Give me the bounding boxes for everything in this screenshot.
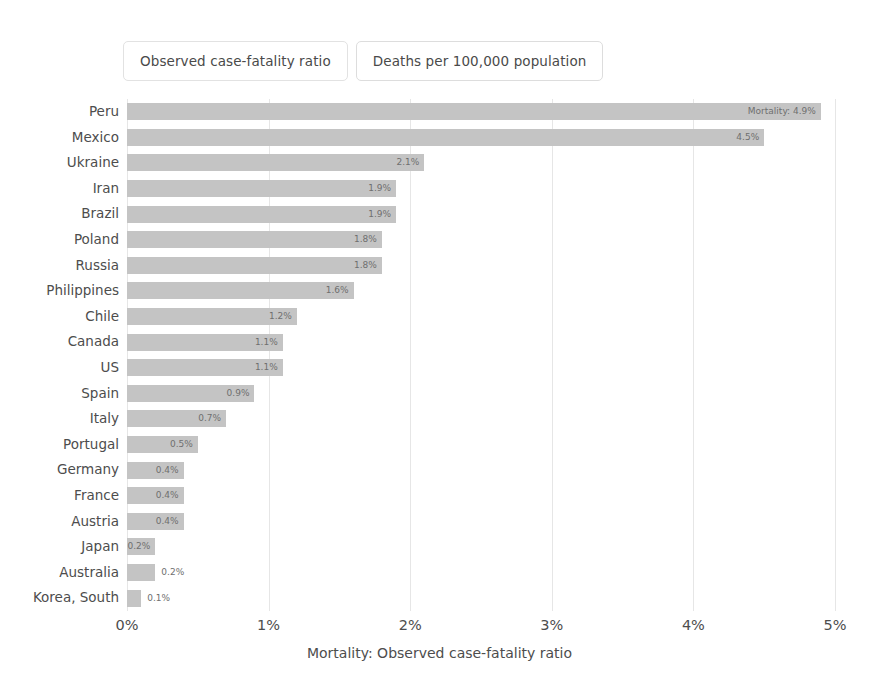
bar-value-label: 0.4%: [156, 517, 184, 526]
bar[interactable]: 1.6%: [127, 282, 354, 299]
category-label: Canada: [68, 335, 119, 349]
category-label: Austria: [71, 515, 119, 529]
category-label: Chile: [85, 310, 119, 324]
plot-area: PeruMortality: 4.9%Mexico4.5%Ukraine2.1%…: [127, 99, 835, 611]
bar[interactable]: 1.1%: [127, 359, 283, 376]
category-label: Portugal: [63, 438, 119, 452]
category-label: Peru: [89, 105, 119, 119]
bar[interactable]: 1.9%: [127, 180, 396, 197]
bar[interactable]: 1.8%: [127, 257, 382, 274]
category-label: Poland: [74, 233, 119, 247]
bar-row[interactable]: Russia1.8%: [127, 253, 835, 279]
bar-chart: PeruMortality: 4.9%Mexico4.5%Ukraine2.1%…: [0, 0, 879, 677]
x-tick-label: 2%: [399, 617, 422, 633]
bar[interactable]: 1.8%: [127, 231, 382, 248]
bar[interactable]: 0.5%: [127, 436, 198, 453]
bar-value-label: 2.1%: [396, 158, 424, 167]
bar-row[interactable]: France0.4%: [127, 483, 835, 509]
category-label: Germany: [57, 463, 119, 477]
x-axis-title: Mortality: Observed case-fatality ratio: [0, 645, 879, 661]
bar[interactable]: 1.9%: [127, 206, 396, 223]
bar-row[interactable]: Mexico4.5%: [127, 125, 835, 151]
bar-value-label: 1.1%: [255, 363, 283, 372]
bar-row[interactable]: Iran1.9%: [127, 176, 835, 202]
bar-row[interactable]: Italy0.7%: [127, 406, 835, 432]
category-label: Spain: [81, 387, 119, 401]
bar[interactable]: 0.4%: [127, 462, 184, 479]
bar-value-label: 1.6%: [326, 286, 354, 295]
category-label: Russia: [76, 259, 119, 273]
category-label: Australia: [59, 566, 119, 580]
bar-row[interactable]: Chile1.2%: [127, 304, 835, 330]
bar-row[interactable]: Korea, South0.1%: [127, 585, 835, 611]
bar-value-label: 0.4%: [156, 491, 184, 500]
bar-row[interactable]: Spain0.9%: [127, 381, 835, 407]
bar-row[interactable]: US1.1%: [127, 355, 835, 381]
bar[interactable]: 0.4%: [127, 513, 184, 530]
bar[interactable]: 0.7%: [127, 410, 226, 427]
bar[interactable]: 1.1%: [127, 334, 283, 351]
bar-value-label: 1.1%: [255, 338, 283, 347]
bar-row[interactable]: Austria0.4%: [127, 509, 835, 535]
bar-row[interactable]: Philippines1.6%: [127, 278, 835, 304]
bar-row[interactable]: Poland1.8%: [127, 227, 835, 253]
bar[interactable]: 4.5%: [127, 129, 764, 146]
category-label: Iran: [93, 182, 119, 196]
category-label: Brazil: [81, 207, 119, 221]
bar[interactable]: Mortality: 4.9%: [127, 103, 821, 120]
bar-value-label: 0.9%: [227, 389, 255, 398]
bar-value-label: 1.8%: [354, 235, 382, 244]
bar-value-label: 0.4%: [156, 466, 184, 475]
bar-value-label: 0.1%: [147, 594, 170, 603]
bar-value-label: 1.9%: [368, 184, 396, 193]
bar-value-label: Mortality: 4.9%: [748, 107, 821, 116]
category-label: Japan: [81, 540, 119, 554]
category-label: US: [101, 361, 119, 375]
bar[interactable]: 0.1%: [127, 590, 141, 607]
x-tick-label: 1%: [257, 617, 280, 633]
bar-value-label: 0.2%: [161, 568, 184, 577]
category-label: Ukraine: [67, 156, 119, 170]
bar[interactable]: 0.9%: [127, 385, 254, 402]
x-tick-label: 4%: [682, 617, 705, 633]
bar-row[interactable]: Australia0.2%: [127, 560, 835, 586]
bar[interactable]: 2.1%: [127, 154, 424, 171]
bar[interactable]: 1.2%: [127, 308, 297, 325]
bar-row[interactable]: Portugal0.5%: [127, 432, 835, 458]
bar-value-label: 1.8%: [354, 261, 382, 270]
bar-row[interactable]: Ukraine2.1%: [127, 150, 835, 176]
bar-row[interactable]: Canada1.1%: [127, 329, 835, 355]
category-label: France: [74, 489, 119, 503]
bar-value-label: 0.7%: [198, 414, 226, 423]
bar-row[interactable]: Germany0.4%: [127, 457, 835, 483]
category-label: Korea, South: [33, 591, 119, 605]
bar-row[interactable]: Brazil1.9%: [127, 201, 835, 227]
bar-row[interactable]: Japan0.2%: [127, 534, 835, 560]
category-label: Italy: [90, 412, 119, 426]
x-tick-label: 5%: [823, 617, 846, 633]
bar[interactable]: 0.2%: [127, 564, 155, 581]
bar-value-label: 0.2%: [127, 542, 155, 551]
gridline-5pct: [835, 99, 836, 611]
bar-value-label: 0.5%: [170, 440, 198, 449]
bar-row[interactable]: PeruMortality: 4.9%: [127, 99, 835, 125]
bar[interactable]: 0.4%: [127, 487, 184, 504]
bar-value-label: 1.9%: [368, 210, 396, 219]
bar[interactable]: 0.2%: [127, 538, 155, 555]
category-label: Mexico: [72, 131, 119, 145]
bar-value-label: 1.2%: [269, 312, 297, 321]
bar-value-label: 4.5%: [736, 133, 764, 142]
category-label: Philippines: [46, 284, 119, 298]
x-tick-label: 3%: [540, 617, 563, 633]
x-tick-label: 0%: [115, 617, 138, 633]
